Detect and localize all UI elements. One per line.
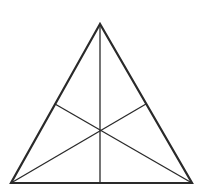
median-from-bottom-left [11, 104, 146, 183]
median-from-bottom-right [55, 104, 192, 183]
triangle-diagram [0, 0, 198, 195]
triangle-outline [11, 24, 192, 183]
